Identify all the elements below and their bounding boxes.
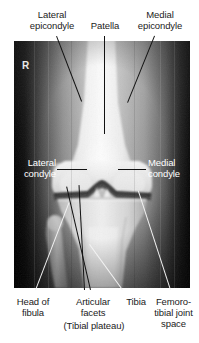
label-tibial-plateau: (Tibial plateau) — [48, 320, 140, 331]
anatomical-xray-figure: R Lateral epicondyle Patella Medial epic… — [0, 0, 199, 343]
label-lateral-condyle: Lateral condyle — [4, 157, 56, 179]
leader-line-medial-condyle — [118, 169, 146, 170]
laterality-marker-r: R — [22, 60, 29, 71]
label-femorotibial-joint-space: Femoro- tibial joint space — [148, 296, 199, 329]
label-articular-facets: Articular facets — [64, 296, 122, 318]
label-medial-epicondyle: Medial epicondyle — [123, 9, 197, 31]
label-medial-condyle: Medial condyle — [148, 157, 198, 179]
label-head-of-fibula: Head of fibula — [2, 296, 64, 318]
leader-line-lateral-condyle — [57, 169, 87, 170]
leader-line-patella — [104, 36, 105, 134]
